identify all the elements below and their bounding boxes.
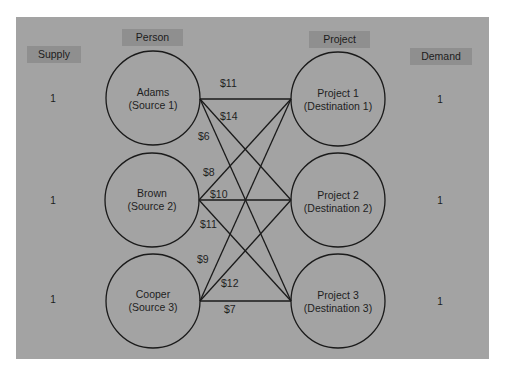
project-1-name: Project 1 [288,87,388,100]
adams-name: Adams [103,86,203,99]
header-demand: Demand [410,48,472,65]
cooper-role: (Source 3) [103,301,203,314]
label-brown: Brown (Source 2) [102,187,202,213]
cooper-name: Cooper [103,288,203,301]
header-person: Person [122,29,183,46]
cost-brown-project-3: $11 [200,218,217,230]
cost-brown-project-2: $10 [210,188,228,200]
cost-adams-project-3: $6 [198,130,210,142]
brown-role: (Source 2) [102,200,202,213]
label-adams: Adams (Source 1) [103,86,203,112]
label-project-2: Project 2 (Destination 2) [288,189,388,215]
supply-cooper: 1 [43,294,63,305]
cost-cooper-project-3: $7 [224,303,236,315]
cost-adams-project-1: $11 [220,77,237,89]
project-3-name: Project 3 [288,289,388,302]
adams-role: (Source 1) [103,99,203,112]
cost-cooper-project-1: $9 [197,253,209,265]
demand-project-1: 1 [430,94,450,105]
cost-adams-project-2: $14 [220,110,238,122]
project-2-name: Project 2 [288,189,388,202]
project-1-role: (Destination 1) [288,100,388,113]
brown-name: Brown [102,187,202,200]
label-project-1: Project 1 (Destination 1) [288,87,388,113]
supply-brown: 1 [43,195,63,206]
label-cooper: Cooper (Source 3) [103,288,203,314]
project-2-role: (Destination 2) [288,202,388,215]
header-supply: Supply [27,46,81,63]
cost-cooper-project-2: $12 [221,277,239,289]
project-3-role: (Destination 3) [288,302,388,315]
demand-project-2: 1 [430,195,450,206]
cost-brown-project-1: $8 [203,166,215,178]
demand-project-3: 1 [430,296,450,307]
supply-adams: 1 [43,93,63,104]
label-project-3: Project 3 (Destination 3) [288,289,388,315]
header-project: Project [309,31,370,48]
